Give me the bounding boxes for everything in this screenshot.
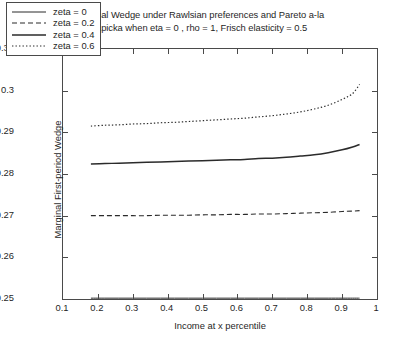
y-tick-mark: [63, 91, 68, 92]
y-tick-mark: [63, 174, 68, 175]
y-tick-mark: [63, 132, 68, 133]
y-tick-mark: [372, 257, 377, 258]
x-tick-mark: [272, 294, 273, 299]
x-tick-mark: [168, 49, 169, 54]
x-tick-label: 1: [356, 303, 396, 313]
legend-item[interactable]: zeta = 0.2: [11, 18, 94, 30]
series-line: [91, 84, 360, 126]
x-tick-mark: [168, 294, 169, 299]
x-tick-mark: [133, 294, 134, 299]
y-tick-label: 0.25: [0, 293, 14, 303]
series-line: [91, 144, 360, 164]
legend-label: zeta = 0.4: [53, 30, 94, 40]
x-tick-mark: [203, 294, 204, 299]
x-tick-mark: [237, 294, 238, 299]
y-tick-mark: [372, 216, 377, 217]
legend: zeta = 0zeta = 0.2zeta = 0.4zeta = 0.6: [6, 2, 101, 56]
x-tick-mark: [98, 294, 99, 299]
y-tick-mark: [63, 257, 68, 258]
x-axis-title: Income at x percentile: [62, 320, 378, 331]
x-tick-mark: [342, 294, 343, 299]
x-tick-mark: [237, 49, 238, 54]
x-tick-mark: [342, 49, 343, 54]
x-tick-mark: [307, 49, 308, 54]
legend-label: zeta = 0: [53, 7, 87, 17]
legend-item[interactable]: zeta = 0: [11, 6, 94, 18]
y-tick-mark: [372, 91, 377, 92]
legend-label: zeta = 0.2: [53, 18, 94, 28]
series-lines: [63, 49, 377, 299]
y-tick-label: 0.26: [0, 251, 14, 261]
legend-line-swatch: [11, 7, 47, 17]
legend-label: zeta = 0.6: [53, 41, 94, 51]
x-tick-mark: [272, 49, 273, 54]
series-line: [91, 211, 360, 216]
legend-line-swatch: [11, 41, 47, 51]
plot-canvas: [63, 49, 377, 299]
x-tick-mark: [203, 49, 204, 54]
y-tick-mark: [63, 216, 68, 217]
x-tick-mark: [133, 49, 134, 54]
y-tick-label: 0.3: [0, 85, 14, 95]
legend-line-swatch: [11, 30, 47, 40]
legend-item[interactable]: zeta = 0.4: [11, 29, 94, 41]
x-tick-mark: [307, 294, 308, 299]
y-tick-label: 0.29: [0, 126, 14, 136]
y-tick-label: 0.27: [0, 210, 14, 220]
y-tick-mark: [372, 132, 377, 133]
y-axis-title: Marginal First-period Wedge: [52, 54, 63, 306]
legend-item[interactable]: zeta = 0.6: [11, 41, 94, 53]
plot-area: [62, 48, 378, 300]
y-tick-label: 0.28: [0, 168, 14, 178]
y-tick-mark: [372, 174, 377, 175]
legend-line-swatch: [11, 18, 47, 28]
